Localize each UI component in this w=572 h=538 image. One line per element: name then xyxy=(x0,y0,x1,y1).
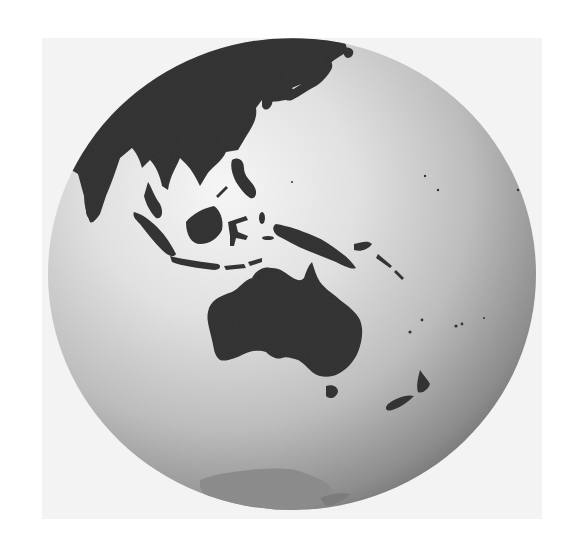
globe-illustration xyxy=(0,0,572,538)
land-island xyxy=(145,465,148,468)
land-island xyxy=(61,363,63,365)
